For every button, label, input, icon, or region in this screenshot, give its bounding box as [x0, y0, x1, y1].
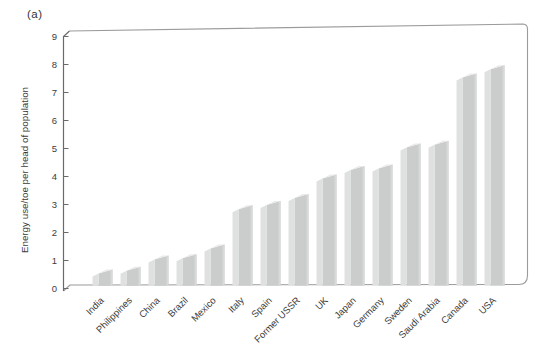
- bar: [401, 144, 421, 286]
- bar-front-face: [485, 69, 491, 286]
- bar: [429, 141, 449, 286]
- bar-front-face: [93, 274, 99, 286]
- bar-front-face: [205, 248, 211, 285]
- bar: [121, 267, 141, 286]
- bar-side-face: [267, 201, 281, 286]
- bar-front-face: [289, 198, 295, 286]
- x-category-label: Italy: [226, 294, 246, 314]
- bar-edge-highlight: [363, 166, 365, 286]
- bar-edge-highlight: [419, 144, 421, 286]
- bar-side-face: [379, 165, 393, 286]
- bar-side-face: [211, 244, 225, 285]
- y-tick-label: 9: [52, 31, 57, 42]
- bar-side-face: [127, 267, 141, 286]
- bar-edge-highlight: [223, 244, 225, 285]
- figure-panel: (a) Energy use/toe per head of populatio…: [0, 0, 553, 357]
- bar: [261, 201, 281, 286]
- bar: [457, 74, 477, 286]
- bar-edge-highlight: [139, 267, 141, 286]
- bar-side-face: [99, 270, 113, 286]
- bar-edge-highlight: [335, 174, 337, 285]
- bar: [149, 256, 169, 286]
- bar-side-face: [295, 194, 309, 286]
- bar-front-face: [345, 170, 351, 286]
- bar-side-face: [463, 74, 477, 286]
- bar-front-face: [149, 260, 155, 286]
- bar-edge-highlight: [251, 205, 253, 286]
- bar-side-face: [239, 205, 253, 286]
- bar-front-face: [429, 145, 435, 286]
- bar: [233, 205, 253, 286]
- bar-front-face: [373, 169, 379, 286]
- bar-side-face: [491, 65, 505, 286]
- x-category-label: India: [84, 294, 107, 317]
- x-category-label: USA: [476, 294, 498, 316]
- bar-edge-highlight: [167, 256, 169, 286]
- bar-front-face: [401, 148, 407, 286]
- x-category-label: Japan: [332, 295, 358, 321]
- bar-edge-highlight: [195, 254, 197, 286]
- y-tick-label: 2: [52, 227, 57, 238]
- y-tick-label: 4: [52, 171, 57, 182]
- y-tick-label: 1: [52, 255, 57, 266]
- bar-front-face: [121, 271, 127, 286]
- bar-edge-highlight: [111, 270, 113, 286]
- bar: [205, 244, 225, 285]
- bar-side-face: [351, 166, 365, 286]
- x-category-label: Mexico: [189, 295, 218, 324]
- bar-edge-highlight: [391, 165, 393, 286]
- bar: [317, 174, 337, 285]
- y-tick-label: 3: [52, 199, 57, 210]
- bar-side-face: [155, 256, 169, 286]
- bar: [345, 166, 365, 286]
- bar-side-face: [183, 254, 197, 286]
- y-tick-label: 5: [52, 143, 57, 154]
- bar-side-face: [407, 144, 421, 286]
- x-category-label: China: [137, 294, 163, 320]
- bar-front-face: [177, 258, 183, 286]
- bar: [177, 254, 197, 286]
- y-tick-label: 8: [52, 59, 57, 70]
- bar-side-face: [323, 174, 337, 285]
- bar-edge-highlight: [475, 74, 477, 286]
- x-category-label: Brazil: [165, 295, 190, 320]
- x-category-label: UK: [313, 294, 331, 312]
- bar: [373, 165, 393, 286]
- bar-edge-highlight: [503, 65, 505, 286]
- bar: [289, 194, 309, 286]
- bar-front-face: [457, 78, 463, 286]
- bar-chart: 0123456789IndiaPhilippinesChinaBrazilMex…: [0, 0, 553, 357]
- bar-edge-highlight: [307, 194, 309, 286]
- y-axis-line: [64, 31, 70, 291]
- x-category-label: Canada: [439, 294, 471, 326]
- bar-edge-highlight: [447, 141, 449, 286]
- y-tick-label: 0: [52, 283, 57, 294]
- bar-front-face: [233, 209, 239, 286]
- bar-front-face: [261, 205, 267, 286]
- bar-side-face: [435, 141, 449, 286]
- y-tick-label: 7: [52, 87, 57, 98]
- bar-edge-highlight: [279, 201, 281, 286]
- bar: [485, 65, 505, 286]
- x-category-label: Germany: [351, 294, 387, 330]
- bar-front-face: [317, 178, 323, 285]
- y-tick-label: 6: [52, 115, 57, 126]
- bar: [93, 270, 113, 286]
- x-category-label: Spain: [249, 295, 274, 320]
